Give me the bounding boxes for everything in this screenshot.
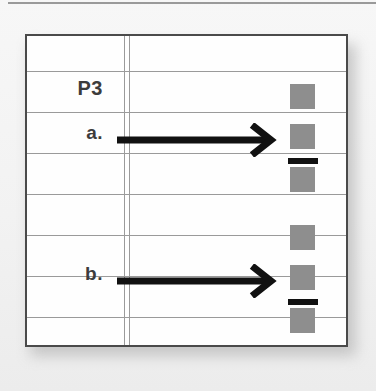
- token-square-b1: [290, 225, 315, 250]
- page-title: P3: [78, 77, 103, 100]
- row-label-a: a.: [86, 122, 103, 144]
- token-square-a2: [290, 124, 315, 149]
- token-square-a1: [290, 84, 315, 109]
- token-square-a3: [290, 167, 315, 192]
- token-bar-a: [288, 158, 318, 164]
- column-divider-right: [129, 36, 130, 345]
- column-divider-left: [124, 36, 125, 345]
- rule-line-4: [27, 194, 346, 195]
- top-edge-rule: [8, 2, 376, 4]
- rule-line-1: [27, 71, 346, 72]
- token-square-b3: [290, 308, 315, 333]
- rule-line-2: [27, 112, 346, 113]
- token-square-b2: [290, 265, 315, 290]
- worksheet-table: P3 a. b.: [25, 34, 348, 347]
- arrow-right-glyph-a: [115, 123, 283, 157]
- arrow-right-icon-a: [115, 123, 283, 157]
- arrow-right-glyph-b: [115, 264, 283, 298]
- page-background: P3 a. b.: [0, 0, 376, 391]
- token-bar-b: [288, 299, 318, 305]
- arrow-right-icon-b: [115, 264, 283, 298]
- row-label-b: b.: [85, 263, 103, 285]
